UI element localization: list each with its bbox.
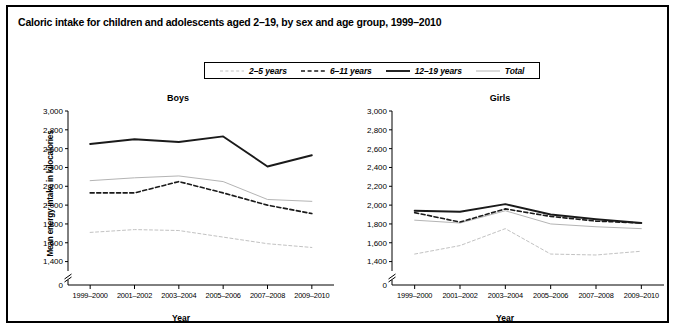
svg-text:2009–2010: 2009–2010	[624, 291, 659, 300]
svg-text:2,400: 2,400	[367, 163, 388, 172]
svg-text:3,000: 3,000	[43, 107, 64, 116]
legend-label-6-11: 6–11 years	[330, 66, 372, 76]
svg-text:0: 0	[59, 281, 64, 290]
svg-text:2,600: 2,600	[43, 145, 64, 154]
legend-entry-12-19: 12–19 years	[386, 66, 462, 76]
svg-text:1,800: 1,800	[43, 220, 64, 229]
legend-line-12-19-icon	[386, 67, 410, 75]
svg-text:2,800: 2,800	[43, 126, 64, 135]
svg-text:2009–2010: 2009–2010	[294, 291, 329, 300]
legend-label-total: Total	[505, 66, 525, 76]
figure-title: Caloric intake for children and adolesce…	[18, 16, 648, 28]
svg-text:2007–2008: 2007–2008	[578, 291, 613, 300]
x-axis-label-boys: Year	[68, 313, 294, 323]
legend-entry-6-11: 6–11 years	[301, 66, 372, 76]
svg-text:1,600: 1,600	[43, 239, 64, 248]
svg-text:0: 0	[383, 281, 388, 290]
svg-text:2,000: 2,000	[43, 201, 64, 210]
chart-legend: 2–5 years 6–11 years 12–19 years Total	[204, 62, 540, 79]
svg-text:2007–2008: 2007–2008	[250, 291, 285, 300]
legend-line-2-5-icon	[220, 67, 244, 75]
svg-text:1999–2000: 1999–2000	[73, 291, 108, 300]
svg-text:2003–2004: 2003–2004	[161, 291, 196, 300]
svg-text:2005–2006: 2005–2006	[206, 291, 241, 300]
svg-text:2,000: 2,000	[367, 201, 388, 210]
svg-text:3,000: 3,000	[367, 107, 388, 116]
svg-text:2005–2006: 2005–2006	[533, 291, 568, 300]
svg-text:2003–2004: 2003–2004	[488, 291, 523, 300]
legend-label-12-19: 12–19 years	[415, 66, 462, 76]
x-axis-label-girls: Year	[392, 313, 618, 323]
svg-text:2,200: 2,200	[367, 182, 388, 191]
svg-text:2,600: 2,600	[367, 145, 388, 154]
chart-panel-girls: Girls 01,4001,6001,8002,0002,2002,4002,6…	[352, 93, 672, 325]
legend-line-total-icon	[476, 67, 500, 75]
svg-text:2,400: 2,400	[43, 163, 64, 172]
panel-title-girls: Girls	[366, 93, 634, 103]
legend-entry-total: Total	[476, 66, 525, 76]
plot-area-boys: 01,4001,6001,8002,0002,2002,4002,6002,80…	[22, 105, 342, 301]
svg-text:1,800: 1,800	[367, 220, 388, 229]
svg-text:2,200: 2,200	[43, 182, 64, 191]
panel-title-boys: Boys	[44, 93, 312, 103]
figure-frame: Caloric intake for children and adolesce…	[6, 5, 669, 323]
svg-text:1,400: 1,400	[43, 257, 64, 266]
legend-line-6-11-icon	[301, 67, 325, 75]
svg-text:1,400: 1,400	[367, 257, 388, 266]
svg-text:2,800: 2,800	[367, 126, 388, 135]
plot-area-girls: 01,4001,6001,8002,0002,2002,4002,6002,80…	[352, 105, 672, 301]
chart-panel-boys: Boys Mean energy intake in kilocalories …	[22, 93, 342, 325]
svg-text:1,600: 1,600	[367, 239, 388, 248]
legend-label-2-5: 2–5 years	[249, 66, 287, 76]
svg-text:1999–2000: 1999–2000	[397, 291, 432, 300]
svg-text:2001–2002: 2001–2002	[442, 291, 477, 300]
legend-entry-2-5: 2–5 years	[220, 66, 287, 76]
svg-text:2001–2002: 2001–2002	[117, 291, 152, 300]
